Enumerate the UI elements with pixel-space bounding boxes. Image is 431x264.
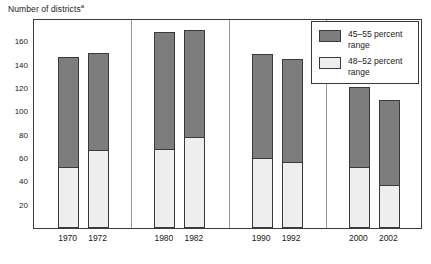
y-axis-tick-label: 160	[2, 38, 28, 46]
y-axis-tick-label: 20	[2, 202, 28, 210]
x-axis-labels: 19701972198019821990199220002002	[33, 233, 422, 249]
legend-label: 48–52 percent range	[348, 56, 402, 77]
chart-title-text: Number of districts	[8, 4, 81, 14]
y-axis-tick-label: 60	[2, 155, 28, 163]
y-axis-tick-label: 80	[2, 132, 28, 140]
x-axis-tick-label: 1970	[58, 233, 77, 243]
bar-chart: Number of districtsa 2040608010012014016…	[0, 0, 431, 264]
bar	[252, 158, 273, 228]
x-axis-tick-label: 2002	[379, 233, 398, 243]
bar	[88, 150, 109, 228]
x-axis-tick-label: 1990	[252, 233, 271, 243]
y-axis-tick-label: 100	[2, 108, 28, 116]
chart-title-footnote-marker: a	[81, 3, 84, 9]
page-title: Number of districtsa	[8, 4, 84, 14]
y-axis-tick-label: 140	[2, 62, 28, 70]
y-axis-tick-label: 120	[2, 85, 28, 93]
bar	[154, 149, 175, 228]
bar	[184, 137, 205, 228]
legend-swatch	[319, 30, 341, 42]
group-separator	[229, 20, 230, 228]
x-axis-tick-label: 1972	[88, 233, 107, 243]
x-axis-tick-label: 1982	[184, 233, 203, 243]
y-axis-tick-label: 40	[2, 178, 28, 186]
chart-legend: 45–55 percent range48–52 percent range	[311, 21, 419, 84]
legend-swatch	[319, 57, 341, 69]
legend-item: 45–55 percent range	[319, 29, 402, 50]
bar	[379, 185, 400, 228]
bar	[349, 167, 370, 228]
x-axis-tick-label: 1992	[282, 233, 301, 243]
legend-label: 45–55 percent range	[348, 29, 402, 50]
x-axis-tick-label: 1980	[154, 233, 173, 243]
bar	[282, 162, 303, 229]
group-separator	[131, 20, 132, 228]
x-axis-tick-label: 2000	[349, 233, 368, 243]
legend-item: 48–52 percent range	[319, 56, 402, 77]
bar	[58, 167, 79, 228]
